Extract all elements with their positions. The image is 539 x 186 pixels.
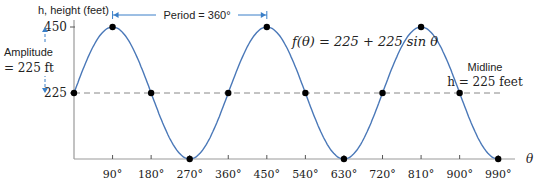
x-tick-label: 90° (103, 168, 123, 181)
arrowhead-right (261, 12, 266, 18)
x-tick-label: 720° (369, 168, 396, 181)
amplitude-label-2: = 225 ft (4, 61, 54, 75)
data-point (264, 24, 270, 30)
data-point (225, 90, 231, 96)
x-tick-label: 900° (446, 168, 473, 181)
data-point (71, 90, 77, 96)
y-axis-label: h, height (feet) (38, 4, 109, 16)
midline-label-2: h = 225 feet (447, 75, 523, 89)
chart-canvas: 45022590°180°270°360°450°540°630°720°810… (0, 0, 539, 186)
sine-chart: 45022590°180°270°360°450°540°630°720°810… (0, 0, 539, 186)
function-label: f(θ) = 225 + 225 sin θ (291, 34, 438, 49)
midline-label-1: Midline (468, 61, 503, 73)
arrowhead-left (114, 12, 119, 18)
x-tick-label: 990° (485, 168, 512, 181)
data-point (341, 156, 347, 162)
x-tick-label: 450° (254, 168, 281, 181)
data-point (418, 24, 424, 30)
data-point (302, 90, 308, 96)
x-tick-label: 270° (176, 168, 203, 181)
x-tick-label: 810° (408, 168, 435, 181)
x-tick-label: 540° (292, 168, 319, 181)
x-tick-label: 630° (331, 168, 358, 181)
amplitude-label-1: Amplitude (4, 46, 53, 58)
data-point (495, 156, 501, 162)
data-point (379, 90, 385, 96)
x-tick-label: 180° (138, 168, 165, 181)
data-point (456, 90, 462, 96)
period-label: Period = 360° (163, 9, 230, 21)
x-tick-label: 360° (215, 168, 242, 181)
data-point (186, 156, 192, 162)
data-point (109, 24, 115, 30)
x-axis-label: θ (526, 152, 534, 166)
data-point (148, 90, 154, 96)
